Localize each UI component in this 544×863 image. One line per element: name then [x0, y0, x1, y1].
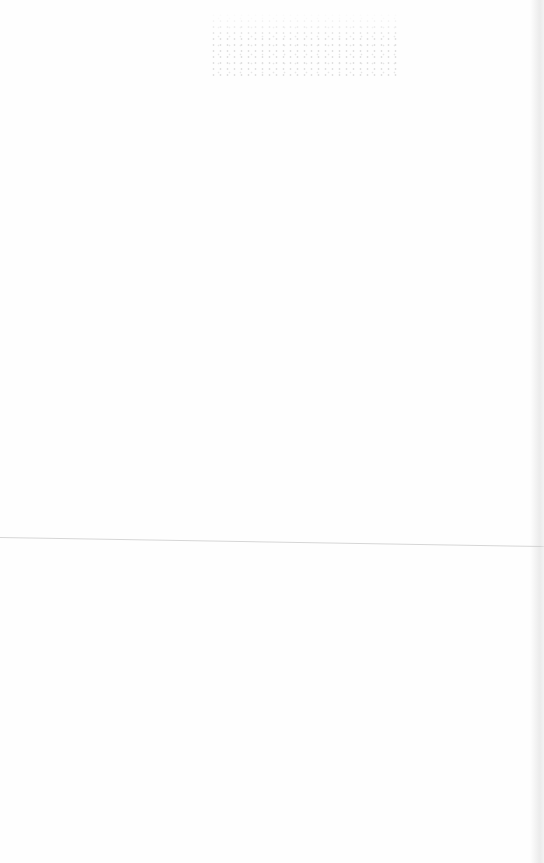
page-edge-shadow	[530, 0, 544, 863]
bleed-through-marks	[210, 12, 400, 80]
scanned-page	[0, 0, 544, 863]
fold-line	[0, 537, 544, 547]
bleed-through-text	[210, 12, 211, 13]
